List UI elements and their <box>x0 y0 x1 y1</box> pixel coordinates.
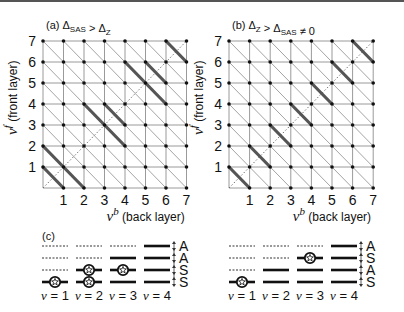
lattice-point <box>351 123 355 127</box>
x-tick-label: 1 <box>246 192 254 208</box>
lattice-point <box>371 39 375 43</box>
lattice-point <box>248 144 252 148</box>
lattice-point <box>330 39 334 43</box>
arrow-head-icon <box>359 272 363 275</box>
x-tick-label: 3 <box>101 192 109 208</box>
lattice-point <box>289 186 293 190</box>
arrow-head-icon <box>359 253 363 256</box>
lattice-point <box>289 123 293 127</box>
lattice-point <box>103 60 107 64</box>
value: = 2 <box>268 288 290 303</box>
title-part: (a) <box>46 19 63 31</box>
y-tick-label: 1 <box>28 159 36 175</box>
lattice-point <box>227 165 231 169</box>
x-tick-label: 6 <box>349 192 357 208</box>
lattice-point <box>41 60 45 64</box>
lattice-point <box>103 144 107 148</box>
lattice-point <box>62 102 66 106</box>
lattice-point <box>62 60 66 64</box>
lattice-point <box>41 39 45 43</box>
y-axis-label: νf (front layer) <box>1 60 20 134</box>
lattice-point <box>123 165 127 169</box>
title-part: > <box>261 22 274 34</box>
lattice-point <box>289 165 293 169</box>
lattice-point <box>289 81 293 85</box>
panel-c-tag: (c) <box>42 230 55 242</box>
lattice-point <box>268 102 272 106</box>
lattice-point <box>185 102 189 106</box>
lattice-point <box>62 39 66 43</box>
arrow-head-icon <box>172 260 176 263</box>
lattice-point <box>268 186 272 190</box>
nu-label: ν = 4 <box>143 288 171 303</box>
lattice-point <box>103 165 107 169</box>
lattice-point <box>164 102 168 106</box>
arrow-head-icon <box>172 241 176 244</box>
lattice-point <box>289 102 293 106</box>
y-tick-label: 3 <box>214 117 222 133</box>
lattice-point <box>268 60 272 64</box>
lattice-point <box>268 144 272 148</box>
lattice-point <box>164 81 168 85</box>
y-tick-label: 7 <box>214 33 222 49</box>
label-text: (back layer) <box>119 210 185 224</box>
label-text: (front layer) <box>6 60 20 125</box>
lattice-point <box>227 60 231 64</box>
y-tick-label: 2 <box>28 138 36 154</box>
arrow-head-icon <box>172 272 176 275</box>
lattice-point <box>41 123 45 127</box>
lattice-point <box>351 81 355 85</box>
x-tick-label: 7 <box>369 192 377 208</box>
lattice-point <box>144 39 148 43</box>
nu-label: ν = 3 <box>109 288 137 303</box>
nu-label: ν = 4 <box>330 288 358 303</box>
y-tick-label: 5 <box>214 75 222 91</box>
lattice-point <box>310 186 314 190</box>
lattice-point <box>103 81 107 85</box>
lattice-point <box>330 81 334 85</box>
nu-label: ν = 1 <box>228 288 256 303</box>
lattice-point <box>144 102 148 106</box>
lattice-point <box>227 39 231 43</box>
symmetry-label: S <box>366 274 375 290</box>
level-diagram-left: ν = 1ν = 2ν = 3ν = 4AASS <box>41 238 189 303</box>
lattice-point <box>371 144 375 148</box>
lattice-point <box>351 165 355 169</box>
lattice-point <box>310 123 314 127</box>
arrow-head-icon <box>359 284 363 287</box>
lattice-point <box>371 186 375 190</box>
x-tick-label: 6 <box>162 192 170 208</box>
lattice-point <box>310 39 314 43</box>
lattice-point <box>248 60 252 64</box>
lattice-point <box>103 123 107 127</box>
y-tick-label: 6 <box>214 54 222 70</box>
lattice-point <box>227 144 231 148</box>
y-tick-label: 6 <box>28 54 36 70</box>
lattice-point <box>248 186 252 190</box>
lattice-point <box>310 81 314 85</box>
lattice-point <box>289 144 293 148</box>
lattice-point <box>185 81 189 85</box>
symmetry-label: S <box>179 274 188 290</box>
lattice-point <box>371 81 375 85</box>
nu-label: ν = 2 <box>262 288 290 303</box>
lattice-point <box>227 123 231 127</box>
arrow-head-icon <box>172 284 176 287</box>
panel-b: 12345671234567(b) ΔZ > ΔSAS ≠ 0νb (back … <box>187 19 377 224</box>
lattice-point <box>144 165 148 169</box>
value: = 3 <box>115 288 137 303</box>
value: = 1 <box>47 288 69 303</box>
x-tick-label: 4 <box>121 192 129 208</box>
arrow-head-icon <box>172 248 176 251</box>
lattice-point <box>82 186 86 190</box>
lattice-point <box>103 39 107 43</box>
lattice-point <box>164 123 168 127</box>
lattice-point <box>82 144 86 148</box>
lattice-point <box>103 186 107 190</box>
x-tick-label: 2 <box>80 192 88 208</box>
level-diagram-right: ν = 1ν = 2ν = 3ν = 4ASAS <box>228 238 376 303</box>
lattice-point <box>371 60 375 64</box>
value: = 2 <box>81 288 103 303</box>
lattice-point <box>164 144 168 148</box>
title-part: ≠ 0 <box>297 25 315 37</box>
